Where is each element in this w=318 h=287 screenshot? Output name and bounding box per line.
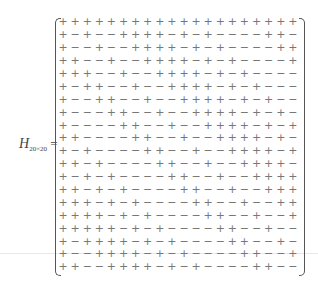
matrix-cell: + — [190, 197, 202, 209]
matrix-cell: − — [190, 223, 202, 235]
matrix-cell: − — [117, 158, 129, 170]
matrix-cell: + — [287, 184, 299, 196]
matrix-cell: + — [93, 81, 105, 93]
matrix-cell: + — [166, 120, 178, 132]
matrix-cell: − — [142, 81, 154, 93]
matrix-cell: − — [166, 248, 178, 260]
matrix-cell: + — [287, 42, 299, 54]
matrix-cell: + — [81, 197, 93, 209]
matrix-cell: − — [226, 94, 238, 106]
matrix-cell: + — [178, 132, 190, 144]
matrix-cell: + — [57, 248, 69, 260]
matrix-cell: + — [238, 16, 250, 28]
matrix-cell: + — [214, 223, 226, 235]
matrix-cell: − — [81, 248, 93, 260]
matrix-cell: − — [263, 132, 275, 144]
matrix-cell: − — [214, 29, 226, 41]
matrix-row: ++++++++++++++++++++ — [57, 16, 299, 29]
matrix-cell: − — [117, 197, 129, 209]
right-bracket — [299, 18, 305, 276]
matrix-cell: + — [117, 29, 129, 41]
matrix-cell: − — [69, 81, 81, 93]
matrix-cell: + — [226, 145, 238, 157]
matrix-cell: − — [287, 132, 299, 144]
matrix-cell: − — [154, 197, 166, 209]
matrix-cell: + — [69, 184, 81, 196]
matrix-cell: − — [214, 81, 226, 93]
matrix-cell: + — [263, 223, 275, 235]
matrix-cell: − — [190, 171, 202, 183]
matrix-cell: − — [202, 223, 214, 235]
matrix-cell: + — [275, 236, 287, 248]
matrix-cell: + — [251, 107, 263, 119]
matrix-cell: − — [287, 68, 299, 80]
matrix-cell: + — [117, 248, 129, 260]
matrix-cell: + — [178, 68, 190, 80]
matrix-cell: − — [263, 248, 275, 260]
matrix-cell: − — [263, 68, 275, 80]
matrix-cell: + — [154, 16, 166, 28]
matrix-cell: + — [263, 16, 275, 28]
matrix-cell: + — [263, 120, 275, 132]
matrix-cell: − — [251, 55, 263, 67]
matrix-cell: − — [263, 81, 275, 93]
matrix-cell: − — [275, 81, 287, 93]
matrix-cell: + — [130, 223, 142, 235]
matrix-cell: − — [275, 120, 287, 132]
matrix-cell: + — [93, 42, 105, 54]
matrix-cell: − — [142, 184, 154, 196]
matrix-cell: + — [154, 158, 166, 170]
matrix-cell: − — [130, 107, 142, 119]
matrix-cell: − — [190, 248, 202, 260]
matrix-cell: + — [238, 68, 250, 80]
matrix-cell: + — [69, 261, 81, 273]
matrix-cell: + — [251, 171, 263, 183]
matrix-cell: − — [69, 42, 81, 54]
matrix-cell: + — [142, 210, 154, 222]
matrix-cell: − — [238, 210, 250, 222]
matrix-cell: + — [69, 158, 81, 170]
matrix-cell: + — [166, 81, 178, 93]
matrix-cell: − — [69, 171, 81, 183]
matrix-cell: + — [130, 120, 142, 132]
matrix-cell: − — [154, 81, 166, 93]
matrix-cell: − — [251, 184, 263, 196]
matrix-cell: − — [202, 261, 214, 273]
matrix-cell: + — [81, 145, 93, 157]
matrix-cell: + — [57, 81, 69, 93]
matrix-cell: − — [263, 55, 275, 67]
matrix-cell: − — [93, 68, 105, 80]
matrix-cell: − — [81, 94, 93, 106]
matrix-cell: − — [275, 145, 287, 157]
matrix-cell: + — [154, 248, 166, 260]
matrix-cell: − — [190, 132, 202, 144]
matrix-cell: + — [275, 107, 287, 119]
matrix-cell: − — [178, 197, 190, 209]
matrix-cell: − — [81, 42, 93, 54]
matrix-cell: + — [287, 16, 299, 28]
matrix-row: +−−++−−+−−++++−+−+−− — [57, 93, 299, 106]
matrix-cell: + — [57, 197, 69, 209]
matrix-cell: − — [287, 81, 299, 93]
matrix-cell: − — [69, 236, 81, 248]
matrix-cell: + — [81, 223, 93, 235]
matrix-cell: + — [57, 29, 69, 41]
matrix-cell: + — [93, 158, 105, 170]
matrix-cell: + — [130, 248, 142, 260]
matrix-cell: − — [130, 171, 142, 183]
matrix-cell: − — [142, 68, 154, 80]
matrix-cell: + — [105, 94, 117, 106]
matrix-cell: + — [214, 68, 226, 80]
matrix-cell: + — [57, 107, 69, 119]
matrix-cell: + — [117, 210, 129, 222]
matrix-cell: − — [130, 68, 142, 80]
matrix-cell: − — [238, 171, 250, 183]
matrix-cell: − — [190, 29, 202, 41]
matrix-cell: + — [154, 68, 166, 80]
matrix-cell: − — [69, 120, 81, 132]
matrix-cell: − — [166, 107, 178, 119]
matrix-cell: + — [166, 55, 178, 67]
matrix-cell: − — [226, 42, 238, 54]
matrix-cell: + — [287, 145, 299, 157]
matrix-cell: − — [287, 223, 299, 235]
